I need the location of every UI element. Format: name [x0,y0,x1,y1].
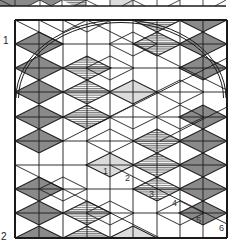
strip-diagonal [86,0,98,6]
step-number-label: 4 [172,198,177,208]
step-number-label: 1 [103,166,108,176]
step-number-label: 2 [125,173,130,183]
strip-diagonal [168,0,180,6]
panel-label-2: 2 [1,231,7,242]
top-strip-panel [0,0,226,6]
strip-diagonal [133,0,145,6]
step-number-label: 3 [149,189,154,199]
step-number-label: 6 [219,223,224,233]
step-number-label: 5 [196,215,201,225]
panel-label-1: 1 [3,35,9,46]
strip-fill [40,0,62,6]
strip-fill [110,0,133,6]
geometric-pattern-diagram: 12123456 [0,0,241,252]
strip-diagonal [215,0,226,6]
strip-fill [62,0,86,6]
